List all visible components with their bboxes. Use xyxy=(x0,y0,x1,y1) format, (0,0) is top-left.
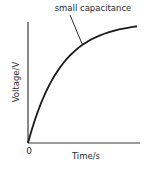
origin-label: 0 xyxy=(26,146,32,156)
y-axis-label: Voltage/V xyxy=(11,62,21,103)
x-axis-label: Time/s xyxy=(71,151,101,161)
chart: small capacitance 0 Time/s Voltage/V xyxy=(0,0,148,169)
annotation-label: small capacitance xyxy=(55,3,132,13)
annotation-leader-line xyxy=(70,15,83,45)
